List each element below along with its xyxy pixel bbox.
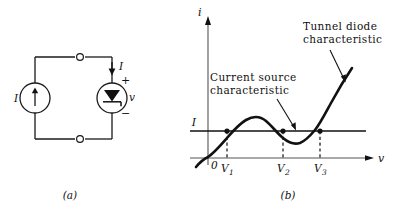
current-source-icon <box>20 83 50 113</box>
tick-label-v2-sub: 2 <box>284 168 290 177</box>
origin-label: 0 <box>211 159 218 171</box>
panel-b-caption: (b) <box>281 189 296 201</box>
y-axis-label: i <box>198 6 202 19</box>
diode-current-arrow-icon <box>109 62 116 76</box>
annotation-tunnel-leader <box>330 50 344 79</box>
x-axis-label: v <box>378 152 385 165</box>
tick-label-v1: V 1 <box>221 162 234 177</box>
diode-voltage-label: v <box>129 91 135 103</box>
polarity-plus-label: + <box>121 74 130 87</box>
graph-panel: i v 0 I V 1 V 2 <box>190 6 385 201</box>
annotation-tunnel-line2: characteristic <box>303 33 382 45</box>
tick-label-v3-sub: 3 <box>322 168 327 177</box>
tick-label-v3: V 3 <box>314 162 327 177</box>
annotation-tunnel-diode: Tunnel diode characteristic <box>303 20 382 83</box>
current-level-label: I <box>191 116 197 129</box>
annotation-source-leader <box>277 99 294 127</box>
tick-label-v2: V 2 <box>277 162 290 177</box>
tick-label-v1-sub: 1 <box>229 168 234 177</box>
terminal-node-icon-top <box>77 54 84 61</box>
annotation-source-line1: Current source <box>210 71 297 83</box>
figure-svg: I I + v − (a) i v 0 I <box>0 0 395 214</box>
diode-current-label: I <box>118 60 124 72</box>
polarity-minus-label: − <box>121 107 130 120</box>
annotation-source-line2: characteristic <box>210 84 289 96</box>
source-current-label: I <box>13 92 19 104</box>
annotation-tunnel-line1: Tunnel diode <box>303 20 377 32</box>
figure-container: I I + v − (a) i v 0 I <box>0 0 395 214</box>
annotation-current-source: Current source characteristic <box>210 71 297 131</box>
terminal-node-icon-bottom <box>77 136 84 143</box>
circuit-panel: I I + v − (a) <box>13 54 135 201</box>
panel-a-caption: (a) <box>63 189 77 201</box>
